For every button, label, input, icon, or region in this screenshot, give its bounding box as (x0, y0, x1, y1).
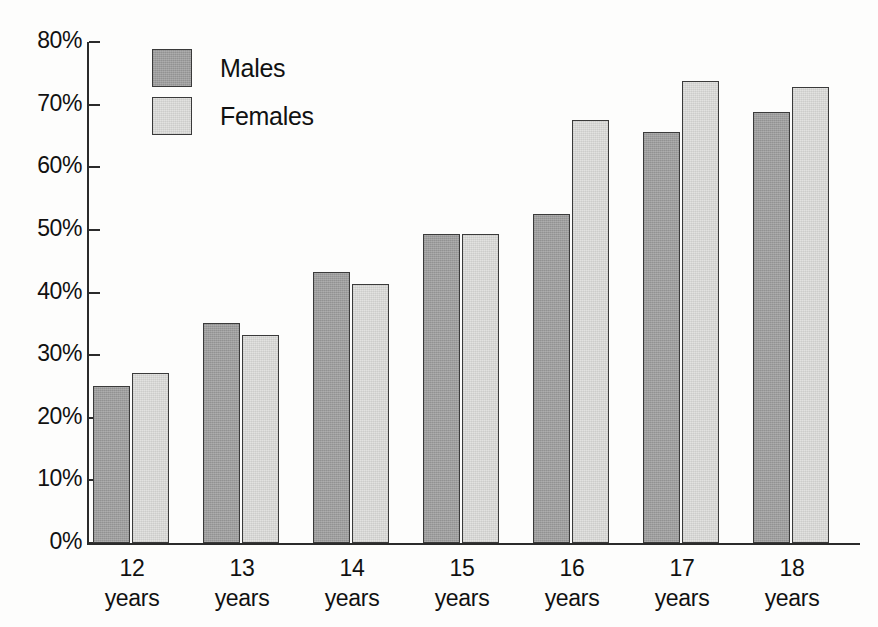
x-axis-label: 15years (407, 553, 517, 614)
x-axis-line (87, 543, 860, 545)
x-axis-label: 17years (627, 553, 737, 614)
bar-females-18 (792, 87, 829, 543)
x-axis-label: 14years (297, 553, 407, 614)
legend-label-females: Females (220, 102, 314, 131)
bar-females-15 (462, 234, 499, 543)
legend-item-females: Females (152, 95, 314, 137)
bar-group (533, 42, 611, 543)
bar-group (753, 42, 831, 543)
bar-group (423, 42, 501, 543)
y-axis-tick-label: 30% (6, 342, 82, 365)
chart-page: 80%70%60%50%40%30%20%10%0% 12years13year… (0, 0, 878, 627)
legend-item-males: Males (152, 47, 314, 89)
bar-group (643, 42, 721, 543)
x-axis-label: 16years (517, 553, 627, 614)
x-axis-label: 13years (187, 553, 297, 614)
legend-swatch-males-icon (152, 49, 192, 87)
bar-males-15 (423, 234, 460, 543)
y-axis-tick-label: 10% (6, 467, 82, 490)
y-axis-tick-label: 20% (6, 405, 82, 428)
y-axis-tick-label: 60% (6, 154, 82, 177)
bar-males-18 (753, 112, 790, 543)
y-axis-tick-label: 0% (6, 530, 82, 553)
y-axis-tick-label: 40% (6, 280, 82, 303)
bar-males-17 (643, 132, 680, 543)
bar-females-17 (682, 81, 719, 543)
bar-females-14 (352, 284, 389, 543)
bar-males-14 (313, 272, 350, 543)
bar-males-16 (533, 214, 570, 543)
bar-females-12 (132, 373, 169, 543)
bar-group (313, 42, 391, 543)
y-axis-tick-label: 70% (6, 92, 82, 115)
x-axis-label: 12years (77, 553, 187, 614)
bar-males-12 (93, 386, 130, 543)
legend-swatch-females-icon (152, 97, 192, 135)
y-axis-tick-label: 80% (6, 29, 82, 52)
y-axis-tick-label: 50% (6, 217, 82, 240)
bar-females-16 (572, 120, 609, 543)
figure-caption (95, 617, 795, 627)
legend-label-males: Males (220, 54, 285, 83)
bar-males-13 (203, 323, 240, 543)
x-axis-label: 18years (737, 553, 847, 614)
bar-females-13 (242, 335, 279, 543)
chart-legend: Males Females (152, 47, 314, 143)
